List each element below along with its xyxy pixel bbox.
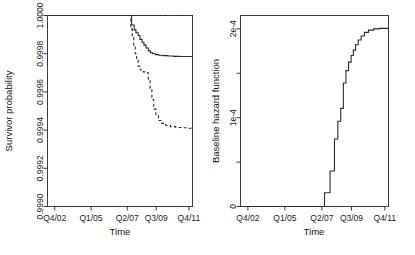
right-panel-curves xyxy=(241,28,389,206)
y-tick-label: 0.9994 xyxy=(35,117,45,143)
x-tick-label: Q2/07 xyxy=(116,213,139,223)
left-panel-frame xyxy=(48,16,193,207)
right-panel-y-axis-title: Baseline hazard function xyxy=(210,59,221,163)
y-tick-label: 0 xyxy=(228,204,238,209)
y-tick-label: 2e-4 xyxy=(228,20,238,37)
y-tick-label: 0.9998 xyxy=(35,40,45,66)
right-panel-x-axis-title: Time xyxy=(304,226,325,237)
y-tick-label: 1.0000 xyxy=(35,2,45,28)
x-tick-label: Q3/09 xyxy=(340,213,363,223)
x-tick-label: Q1/05 xyxy=(273,213,296,223)
right-panel-y-ticks: 01e-42e-4 xyxy=(228,20,241,209)
left-panel-x-axis-title: Time xyxy=(110,226,131,237)
series-survivor-dashed xyxy=(48,16,193,129)
two-panel-survival-figure: 0.99900.99920.99940.99960.99981.0000 Q4/… xyxy=(0,0,415,255)
figure-container: 0.99900.99920.99940.99960.99981.0000 Q4/… xyxy=(0,0,415,255)
y-tick-label: 1e-4 xyxy=(228,109,238,126)
right-panel-x-ticks: Q4/02Q1/05Q2/07Q3/09Q4/11 xyxy=(236,207,396,223)
series-baseline-hazard xyxy=(241,28,389,206)
x-tick-label: Q1/05 xyxy=(79,213,102,223)
x-tick-label: Q4/02 xyxy=(43,213,66,223)
left-panel-curves xyxy=(48,16,193,129)
right-panel: 01e-42e-4 Q4/02Q1/05Q2/07Q3/09Q4/11 Base… xyxy=(210,16,396,238)
right-panel-frame xyxy=(241,16,389,207)
left-panel-y-ticks: 0.99900.99920.99940.99960.99981.0000 xyxy=(35,2,48,219)
x-tick-label: Q3/09 xyxy=(145,213,168,223)
x-tick-label: Q4/02 xyxy=(236,213,259,223)
x-tick-label: Q4/11 xyxy=(178,213,201,223)
left-panel-x-ticks: Q4/02Q1/05Q2/07Q3/09Q4/11 xyxy=(43,207,200,223)
series-survivor-solid xyxy=(48,16,193,57)
left-panel-y-axis-title: Survivor probability xyxy=(3,70,14,151)
x-tick-label: Q4/11 xyxy=(374,213,397,223)
y-tick-label: 0.9992 xyxy=(35,155,45,181)
left-panel: 0.99900.99920.99940.99960.99981.0000 Q4/… xyxy=(3,2,200,237)
x-tick-label: Q2/07 xyxy=(310,213,333,223)
y-tick-label: 0.9996 xyxy=(35,79,45,105)
